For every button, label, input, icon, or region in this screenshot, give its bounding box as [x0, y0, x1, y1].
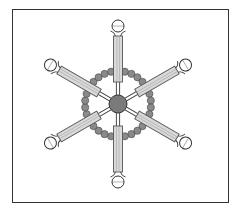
arm-bottom: [111, 113, 126, 188]
bead: [101, 70, 108, 77]
rod-domain: [114, 36, 123, 82]
central-hub: [109, 95, 127, 113]
arm-top-right: [122, 56, 194, 106]
arm-top: [111, 20, 126, 95]
bead: [147, 104, 154, 111]
bead: [82, 97, 89, 104]
protein-complex-diagram: [0, 0, 233, 208]
bead: [128, 131, 135, 138]
arm-bottom-right: [122, 102, 194, 152]
arm-top-left: [42, 56, 114, 106]
bead: [147, 97, 154, 104]
rod-domain: [114, 126, 123, 172]
bead: [82, 104, 89, 111]
arm-bottom-left: [42, 102, 114, 152]
